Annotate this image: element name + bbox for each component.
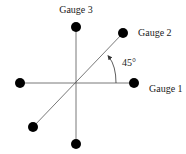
gauge2-line bbox=[33, 33, 123, 127]
gauge3-top-dot bbox=[71, 22, 81, 32]
gauge1-label: Gauge 1 bbox=[149, 83, 183, 94]
gauge-rosette-diagram: Gauge 3 Gauge 2 Gauge 1 45° bbox=[0, 0, 186, 154]
gauge2-lower-dot bbox=[28, 122, 38, 132]
gauge1-left-dot bbox=[15, 78, 25, 88]
gauge3-bottom-dot bbox=[71, 139, 81, 149]
gauge1-right-dot bbox=[129, 78, 139, 88]
angle-label: 45° bbox=[122, 57, 136, 68]
gauge3-label: Gauge 3 bbox=[59, 4, 93, 15]
gauge2-label: Gauge 2 bbox=[138, 27, 172, 38]
angle-arc-arrow bbox=[109, 57, 116, 83]
gauge2-upper-dot bbox=[118, 28, 128, 38]
